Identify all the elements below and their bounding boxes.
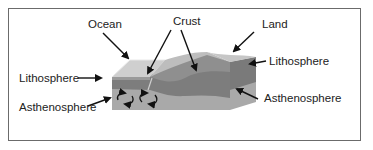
block-side-face: [230, 57, 256, 110]
label-crust: Crust: [173, 15, 200, 27]
label-asthenosphere-left: Asthenosphere: [19, 101, 96, 113]
label-asthenosphere-right: Asthenosphere: [264, 92, 341, 104]
label-ocean: Ocean: [88, 18, 122, 30]
label-lithosphere-right: Lithosphere: [269, 55, 329, 67]
label-lithosphere-left: Lithosphere: [19, 72, 79, 84]
label-land: Land: [262, 18, 288, 30]
land-arrow: [234, 32, 254, 51]
ocean-arrow: [103, 33, 128, 58]
